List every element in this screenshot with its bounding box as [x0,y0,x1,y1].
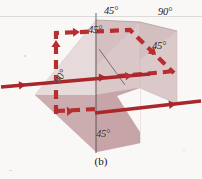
angle-label-top-left: 45° [104,5,118,16]
scan-artifact-line [0,16,202,17]
angle-label-inner-45: 45° [88,24,102,35]
angle-label-bottom-45: 45° [96,128,110,139]
figure-caption: (b) [0,155,202,167]
scan-artifact-speck [9,170,12,171]
angle-label-right-45: 45° [152,40,166,51]
scan-artifact-speck [183,150,185,151]
scan-artifact-speck [24,55,26,57]
prism-ray-diagram-figure: 45° 90° 45° 45° 90° 45° (b) [0,0,202,179]
